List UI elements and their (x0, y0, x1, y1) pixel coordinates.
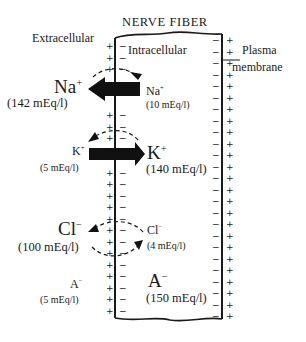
inner-minus-sign-left: − (119, 295, 127, 304)
a-ion-intracellular: A− (148, 271, 168, 290)
outer-plus-sign-right: + (226, 59, 234, 68)
plasma-membrane-label-2: membrane (232, 60, 283, 75)
outer-plus-sign-left: + (106, 192, 114, 201)
outer-plus-sign-right: + (226, 301, 234, 310)
outer-plus-sign-right: + (226, 82, 234, 91)
inner-minus-sign-right: − (212, 71, 220, 80)
inner-minus-sign-right: − (212, 59, 220, 68)
outer-plus-sign-right: + (226, 266, 234, 275)
outer-plus-sign-left: + (106, 307, 114, 316)
outer-plus-sign-left: + (106, 134, 114, 143)
outer-plus-sign-right: + (226, 197, 234, 206)
outer-plus-sign-right: + (226, 255, 234, 264)
inner-minus-sign-left: − (119, 284, 127, 293)
inner-minus-sign-left: − (119, 272, 127, 281)
outer-plus-sign-left: + (106, 65, 114, 74)
k-flow-arrow (89, 142, 145, 166)
inner-minus-sign-left: − (119, 111, 127, 120)
inner-minus-sign-left: − (119, 215, 127, 224)
inner-minus-sign-right: − (212, 197, 220, 206)
cl-ion-intracellular: Cl− (147, 224, 162, 236)
inner-minus-sign-right: − (212, 243, 220, 252)
inner-minus-sign-right: − (212, 266, 220, 275)
outer-plus-sign-right: + (226, 128, 234, 137)
outer-plus-sign-right: + (226, 117, 234, 126)
extracellular-label: Extracellular (32, 31, 94, 46)
outer-plus-sign-right: + (226, 278, 234, 287)
inner-minus-sign-left: − (119, 134, 127, 143)
cl-conc-intracellular: (4 mEq/l) (147, 240, 186, 251)
outer-plus-sign-left: + (106, 238, 114, 247)
outer-plus-sign-left: + (106, 295, 114, 304)
outer-plus-sign-left: + (106, 111, 114, 120)
inner-minus-sign-right: − (212, 48, 220, 57)
a-ion-extracellular: A− (70, 278, 82, 290)
outer-plus-sign-right: + (226, 151, 234, 160)
outer-plus-sign-left: + (106, 261, 114, 270)
outer-plus-sign-left: + (106, 272, 114, 281)
inner-minus-sign-right: − (212, 186, 220, 195)
outer-plus-sign-left: + (106, 203, 114, 212)
outer-plus-sign-right: + (226, 94, 234, 103)
outer-plus-sign-right: + (226, 312, 234, 321)
inner-minus-sign-right: − (212, 220, 220, 229)
inner-minus-sign-right: − (212, 232, 220, 241)
outer-plus-sign-left: + (106, 226, 114, 235)
outer-plus-sign-left: + (106, 180, 114, 189)
outer-plus-sign-left: + (106, 284, 114, 293)
inner-minus-sign-right: − (212, 174, 220, 183)
outer-plus-sign-right: + (226, 220, 234, 229)
inner-minus-sign-right: − (212, 209, 220, 218)
inner-minus-sign-right: − (212, 163, 220, 172)
na-ion-extracellular: Na+ (54, 77, 82, 96)
inner-minus-sign-left: − (119, 123, 127, 132)
outer-plus-sign-left: + (106, 54, 114, 63)
outer-plus-sign-left: + (106, 123, 114, 132)
inner-minus-sign-right: − (212, 140, 220, 149)
k-conc-intracellular: (140 mEq/l) (146, 162, 207, 177)
cl-conc-extracellular: (100 mEq/l) (18, 240, 79, 255)
outer-plus-sign-right: + (226, 36, 234, 45)
outer-plus-sign-left: + (106, 249, 114, 258)
k-ion-extracellular: K+ (72, 145, 84, 157)
inner-minus-sign-left: − (119, 249, 127, 258)
outer-plus-sign-right: + (226, 105, 234, 114)
outer-plus-sign-left: + (106, 215, 114, 224)
inner-minus-sign-left: − (119, 307, 127, 316)
inner-minus-sign-right: − (212, 117, 220, 126)
outer-plus-sign-left: + (106, 42, 114, 51)
inner-minus-sign-right: − (212, 151, 220, 160)
inner-minus-sign-right: − (212, 301, 220, 310)
na-conc-intracellular: (10 mEq/l) (146, 99, 190, 110)
k-ion-intracellular: K+ (147, 143, 167, 162)
inner-minus-sign-right: − (212, 82, 220, 91)
outer-plus-sign-right: + (226, 71, 234, 80)
outer-plus-sign-right: + (226, 209, 234, 218)
inner-minus-sign-right: − (212, 289, 220, 298)
diagram-title: NERVE FIBER (122, 15, 208, 30)
na-conc-extracellular: (142 mEq/l) (7, 96, 68, 111)
inner-minus-sign-right: − (212, 255, 220, 264)
fiber-bottom-edge (115, 318, 222, 321)
k-conc-extracellular: (5 mEq/l) (40, 162, 79, 173)
inner-minus-sign-left: − (119, 238, 127, 247)
cl-ion-extracellular: Cl− (58, 219, 82, 238)
inner-minus-sign-left: − (119, 203, 127, 212)
inner-minus-sign-left: − (119, 54, 127, 63)
inner-minus-sign-right: − (212, 128, 220, 137)
intracellular-label: Intracellular (128, 43, 187, 58)
a-conc-intracellular: (150 mEq/l) (146, 291, 207, 306)
outer-plus-sign-right: + (226, 48, 234, 57)
fiber-top-edge (115, 32, 222, 38)
outer-plus-sign-right: + (226, 163, 234, 172)
inner-minus-sign-right: − (212, 36, 220, 45)
inner-minus-sign-left: − (119, 261, 127, 270)
a-conc-extracellular: (5 mEq/l) (40, 294, 79, 305)
outer-plus-sign-right: + (226, 186, 234, 195)
inner-minus-sign-left: − (119, 42, 127, 51)
inner-minus-sign-left: − (119, 180, 127, 189)
na-ion-intracellular: Na+ (146, 85, 164, 97)
outer-plus-sign-right: + (226, 289, 234, 298)
outer-plus-sign-right: + (226, 140, 234, 149)
outer-plus-sign-right: + (226, 174, 234, 183)
